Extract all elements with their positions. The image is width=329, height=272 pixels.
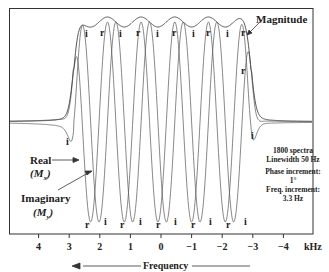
real-extremum-marker: r: [241, 28, 245, 38]
imaginary-extremum-marker: i: [174, 217, 177, 227]
real-extremum-marker: r: [100, 28, 104, 38]
imaginary-extremum-marker: i: [139, 217, 142, 227]
real-label: Real: [30, 155, 51, 166]
imaginary-sub-label: (My): [33, 207, 53, 223]
imaginary-extremum-marker: i: [119, 29, 122, 39]
imaginary-extremum-marker: i: [244, 217, 247, 227]
x-tick-label: 1: [128, 241, 133, 252]
real-extremum-marker: r: [156, 220, 160, 230]
note-linewidth: Linewidth 50 Hz: [257, 155, 329, 164]
x-tick-label: −3: [247, 241, 258, 252]
real-extremum-marker: r: [191, 220, 195, 230]
real-extremum-marker: r: [241, 66, 245, 76]
real-extremum-marker: r: [136, 28, 140, 38]
imaginary-label: Imaginary: [21, 193, 71, 204]
note-spectra: 1800 spectra: [257, 146, 329, 155]
real-extremum-marker: r: [226, 220, 230, 230]
real-extremum-marker: r: [85, 220, 89, 230]
x-unit-label: kHz: [304, 241, 322, 252]
magnitude-label: Magnitude: [256, 14, 307, 25]
x-tick-label: 3: [67, 241, 72, 252]
note-freq-increment: Freq. increment:: [257, 185, 329, 194]
x-tick-label: 0: [159, 241, 164, 252]
x-tick-label: 2: [97, 241, 102, 252]
spectrum-plot: [0, 0, 329, 272]
x-axis-title: Frequency: [143, 260, 188, 271]
x-tick-label: 4: [36, 241, 41, 252]
imaginary-extremum-marker: i: [192, 29, 195, 39]
imaginary-extremum-marker: i: [104, 217, 107, 227]
x-tick-label: −1: [186, 241, 197, 252]
real-extremum-marker: r: [172, 28, 176, 38]
imaginary-extremum-marker: i: [156, 29, 159, 39]
note-phase-increment: Phase increment:: [257, 167, 329, 176]
imaginary-extremum-marker: i: [251, 131, 254, 141]
x-tick-label: −4: [278, 241, 289, 252]
imaginary-extremum-marker: i: [85, 29, 88, 39]
imaginary-extremum-marker: i: [209, 217, 212, 227]
real-extremum-marker: r: [120, 220, 124, 230]
magnitude-curve: [10, 17, 312, 121]
real-extremum-marker: r: [206, 28, 210, 38]
real-sub-label: (Mx): [30, 168, 51, 184]
parameters-note: 1800 spectra Linewidth 50 Hz Phase incre…: [257, 146, 329, 203]
x-tick-label: −2: [217, 241, 228, 252]
note-phase-value: 1°: [257, 176, 329, 185]
imaginary-extremum-marker: i: [226, 29, 229, 39]
note-freq-value: 3.3 Hz: [257, 194, 329, 203]
x-axis-ticks: [39, 234, 284, 238]
imaginary-extremum-marker: i: [66, 137, 69, 147]
